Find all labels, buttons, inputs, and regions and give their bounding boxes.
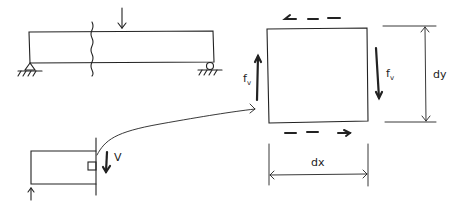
- left-shear-arrow-icon: [255, 56, 261, 100]
- dy-label: dy: [433, 69, 447, 80]
- simply-supported-beam: [18, 8, 222, 76]
- diagram-canvas: [0, 0, 461, 212]
- shear-label: V: [114, 152, 122, 163]
- left-stress-subscript: v: [247, 79, 251, 87]
- pin-support-icon: [18, 63, 42, 76]
- left-stress-label: fv: [243, 73, 251, 87]
- free-body-segment: [28, 104, 255, 200]
- right-stress-label: fv: [386, 68, 394, 82]
- reaction-arrow-up-icon: [28, 188, 34, 200]
- right-shear-arrow-icon: [376, 48, 382, 98]
- element-square: [267, 28, 368, 123]
- roller-support-icon: [198, 63, 222, 76]
- shear-force-arrow-icon: [103, 152, 110, 172]
- stress-element: [255, 15, 436, 186]
- stress-element-marker: [88, 162, 96, 170]
- dx-label: dx: [311, 157, 325, 168]
- leader-curve: [97, 109, 255, 155]
- point-load-arrow-icon: [118, 8, 126, 28]
- bottom-shear-arrows-icon: [285, 130, 350, 136]
- section-cut-line: [91, 22, 93, 76]
- right-stress-subscript: v: [390, 74, 394, 82]
- top-shear-arrows-icon: [285, 15, 340, 19]
- beam-body: [29, 31, 214, 63]
